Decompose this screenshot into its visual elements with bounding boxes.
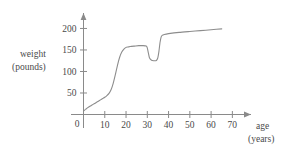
x-tick-label: 50 [185, 120, 195, 130]
x-tick-label: 60 [206, 120, 216, 130]
y-tick-label: 150 [62, 45, 77, 55]
x-tick-label: 30 [143, 120, 153, 130]
y-axis-title-line2: (pounds) [12, 62, 46, 73]
x-tick-label: 10 [100, 120, 110, 130]
y-axis-arrowhead [81, 13, 87, 20]
x-axis-arrowhead [244, 112, 251, 118]
y-tick-label: 200 [62, 24, 77, 34]
y-tick-labels: 50100150200 [62, 24, 77, 99]
weight-age-figure: 50100150200 10203040506070 0 weight (pou… [0, 0, 288, 157]
axes-group [71, 13, 251, 128]
origin-label: 0 [75, 119, 80, 129]
y-tick-label: 50 [67, 88, 77, 98]
x-tick-label: 20 [121, 120, 131, 130]
y-axis-title-line1: weight [20, 49, 46, 59]
x-tick-label: 40 [164, 120, 174, 130]
x-tick-label: 70 [228, 120, 238, 130]
x-axis-title-line2: (years) [248, 134, 274, 145]
x-tick-labels: 10203040506070 [100, 120, 237, 130]
x-axis-title-line1: age [256, 121, 269, 131]
y-tick-label: 100 [62, 67, 77, 77]
chart-canvas: 50100150200 10203040506070 0 weight (pou… [0, 0, 288, 157]
weight-curve [84, 29, 222, 111]
